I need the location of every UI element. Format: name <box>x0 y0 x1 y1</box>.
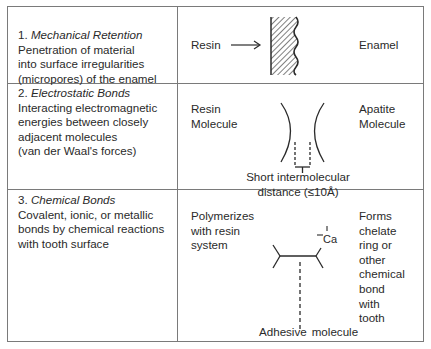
row-2-title: Electrostatic Bonds <box>31 86 130 99</box>
label-line: chemical <box>359 267 405 282</box>
row-2-desc-line: adjacent molecules <box>18 130 178 145</box>
row-1-desc-line: (micropores) of the enamel <box>18 72 178 87</box>
label-line: other <box>359 253 405 268</box>
chelate-label: Forms chelate ring or other chemical bon… <box>359 209 405 326</box>
row-3-title: Chemical Bonds <box>31 193 115 206</box>
label-line: Apatite <box>359 102 405 117</box>
row-1-number: 1. <box>18 28 28 41</box>
row-3-desc-line: with tooth surface <box>18 237 178 252</box>
row-2-desc-line: energies between closely <box>18 115 178 130</box>
caption-line: Short intermolecular <box>243 170 353 185</box>
row-1-desc-line: Penetration of material <box>18 43 178 58</box>
row-1-desc-line: into surface irregularities <box>18 57 178 72</box>
label-line: Forms <box>359 209 405 224</box>
label-line: with <box>359 297 405 312</box>
resin-molecule-label: Resin Molecule <box>191 102 237 131</box>
row-2-desc-line: (van der Waal's forces) <box>18 144 178 159</box>
label-line: system <box>191 238 254 253</box>
enamel-label: Enamel <box>359 38 398 53</box>
polymerizes-label: Polymerizes with resin system <box>191 209 254 253</box>
calcium-atom-label: Ca <box>323 232 337 247</box>
resin-label: Resin <box>191 38 221 53</box>
row-2-desc-line: Interacting electromagnetic <box>18 101 178 116</box>
row-3-heading: 3. Chemical Bonds <box>18 193 178 208</box>
row-2-number: 2. <box>18 86 28 99</box>
row-3-description: 3. Chemical Bonds Covalent, ionic, or me… <box>18 193 178 251</box>
row-1-description: 1. Mechanical Retention Penetration of m… <box>18 28 178 86</box>
molecule-attraction-icon <box>278 100 328 170</box>
label-line: Molecule <box>359 117 405 132</box>
label-line: tooth <box>359 311 405 326</box>
apatite-molecule-label: Apatite Molecule <box>359 102 405 131</box>
label-line: ring or <box>359 238 405 253</box>
row-1-heading: 1. Mechanical Retention <box>18 28 178 43</box>
label-line: with resin <box>191 224 254 239</box>
row-1-title: Mechanical Retention <box>31 28 143 41</box>
row-divider <box>8 189 423 190</box>
caption-word: Adhesive <box>259 325 307 338</box>
label-line: Polymerizes <box>191 209 254 224</box>
adhesive-molecule-caption: Adhesivemolecule <box>259 325 358 340</box>
bonding-mechanisms-table: 1. Mechanical Retention Penetration of m… <box>7 6 424 342</box>
caption-word: molecule <box>312 325 358 338</box>
label-line: Molecule <box>191 117 237 132</box>
label-line: chelate <box>359 224 405 239</box>
adhesive-molecule-icon <box>271 240 331 335</box>
enamel-surface-icon <box>269 15 305 77</box>
row-3-number: 3. <box>18 193 28 206</box>
label-line: bond <box>359 282 405 297</box>
caption-line: distance (≤10Å) <box>243 185 353 200</box>
distance-caption: Short intermolecular distance (≤10Å) <box>243 170 353 199</box>
arrow-icon <box>230 39 262 51</box>
row-2-description: 2. Electrostatic Bonds Interacting elect… <box>18 86 178 159</box>
row-3-desc-line: Covalent, ionic, or metallic <box>18 208 178 223</box>
row-2-heading: 2. Electrostatic Bonds <box>18 86 178 101</box>
label-line: Resin <box>191 102 237 117</box>
row-3-desc-line: bonds by chemical reactions <box>18 222 178 237</box>
